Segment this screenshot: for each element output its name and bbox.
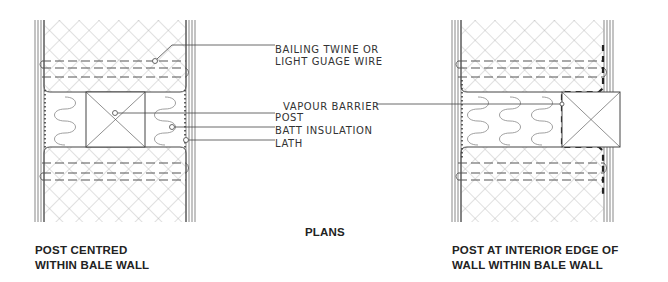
- left-detail-title-line2: WITHIN BALE WALL: [35, 258, 149, 273]
- left-post: [86, 92, 145, 147]
- left-detail-title-line1: POST CENTRED: [35, 243, 128, 258]
- right-wall-detail: [376, 20, 620, 222]
- callout-batt-insulation: BATT INSULATION: [275, 125, 373, 136]
- callout-twine-line2: LIGHT GUAGE WIRE: [275, 56, 383, 67]
- callout-lath: LATH: [275, 138, 303, 149]
- callout-vapour-barrier: VAPOUR BARRIER: [283, 101, 380, 112]
- right-detail-title-line2: WALL WITHIN BALE WALL: [452, 258, 603, 273]
- callout-post: POST: [275, 112, 304, 123]
- callout-twine-line1: BAILING TWINE OR: [275, 44, 379, 55]
- lower-bale: [44, 147, 186, 222]
- right-detail-title-line1: POST AT INTERIOR EDGE OF: [452, 243, 618, 258]
- plans-heading: PLANS: [305, 225, 345, 240]
- upper-bale: [44, 20, 186, 92]
- left-wall-detail: [35, 20, 275, 222]
- right-post: [562, 92, 620, 147]
